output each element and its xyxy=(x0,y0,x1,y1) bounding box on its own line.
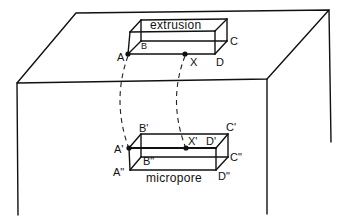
extrusion-left-bottom-edge xyxy=(128,41,141,54)
micropore-right-bottom-edge xyxy=(216,157,228,170)
dashed-curve-A xyxy=(120,56,128,146)
extrusion-prism: extrusion A B C D X xyxy=(117,18,238,68)
projection-curves xyxy=(120,56,185,146)
label-B-double-prime: B" xyxy=(143,155,154,167)
label-X-prime: X' xyxy=(188,135,197,147)
extrusion-right-bottom-edge xyxy=(215,41,227,54)
label-B-prime: B' xyxy=(139,122,148,134)
point-X-dot xyxy=(182,51,187,56)
right-back-edge xyxy=(329,10,331,142)
micropore-left-top-edge xyxy=(129,134,141,148)
extrusion-front-left-edge xyxy=(128,32,130,54)
extrusion-right-top-edge xyxy=(215,19,227,31)
extrusion-title: extrusion xyxy=(150,18,201,32)
label-C-prime: C' xyxy=(226,121,236,133)
micropore-title: micropore xyxy=(146,171,202,185)
micropore-left-bottom-edge xyxy=(130,157,141,170)
left-front-edge xyxy=(17,83,18,215)
label-C-double-prime: C" xyxy=(230,151,242,163)
label-A: A xyxy=(117,51,125,63)
micropore-prism: A' B' C' D' X' A" B" C" D" micropore xyxy=(113,121,242,185)
micropore-front-left-edge xyxy=(129,148,130,170)
label-A-double-prime: A" xyxy=(113,166,124,178)
label-A-prime: A' xyxy=(114,143,123,155)
micropore-right-top-edge xyxy=(216,134,228,148)
diagram-canvas: extrusion A B C D X A' B' C' D' X' A" B"… xyxy=(0,0,347,224)
label-C: C xyxy=(230,35,238,47)
dashed-curve-X xyxy=(177,56,186,146)
point-A-dot xyxy=(125,51,130,56)
point-A1-dot xyxy=(126,145,131,150)
label-X: X xyxy=(190,56,198,68)
label-D: D xyxy=(216,56,224,68)
label-B: B xyxy=(141,41,147,51)
extrusion-left-top-edge xyxy=(130,20,141,32)
label-D-prime: D' xyxy=(206,135,216,147)
label-D-double-prime: D" xyxy=(218,170,230,182)
